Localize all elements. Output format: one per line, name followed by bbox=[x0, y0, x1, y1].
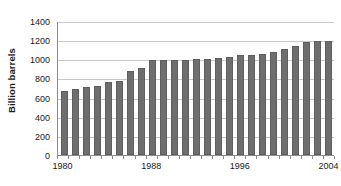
x-axis-tick-mark bbox=[101, 156, 102, 159]
bar bbox=[314, 41, 321, 155]
y-axis-tick-label: 1400 bbox=[30, 17, 50, 27]
x-axis-tick-label: 1980 bbox=[53, 161, 73, 171]
x-axis-tick-mark bbox=[268, 156, 269, 159]
bar bbox=[270, 52, 277, 155]
bar bbox=[149, 60, 156, 155]
bar bbox=[215, 58, 222, 155]
bar bbox=[226, 57, 233, 155]
x-axis-tick-mark bbox=[290, 156, 291, 159]
y-axis-tick-label: 200 bbox=[35, 132, 50, 142]
y-axis-tick-label: 1000 bbox=[30, 55, 50, 65]
y-axis-tick-label: 0 bbox=[45, 151, 50, 161]
y-axis-tick-labels: 0200400600800100012001400 bbox=[20, 15, 53, 156]
bar bbox=[259, 54, 266, 155]
bar-chart-figure: Billion barrels 020040060080010001200140… bbox=[0, 0, 341, 186]
bar bbox=[171, 60, 178, 155]
x-axis-tick-mark bbox=[234, 156, 235, 159]
x-axis-tick-mark bbox=[279, 156, 280, 159]
x-axis-tick-mark bbox=[57, 156, 58, 159]
x-axis-tick-mark bbox=[112, 156, 113, 159]
y-axis-tick-label: 600 bbox=[35, 94, 50, 104]
x-axis-tick-label: 1988 bbox=[141, 161, 161, 171]
x-axis-tick-labels: 1980198819962004 bbox=[57, 161, 334, 177]
x-axis-tick-mark bbox=[201, 156, 202, 159]
x-axis-tick-mark bbox=[146, 156, 147, 159]
x-axis-tick-label: 1996 bbox=[230, 161, 250, 171]
bar bbox=[94, 86, 101, 155]
bar bbox=[204, 59, 211, 155]
x-axis-tick-mark bbox=[135, 156, 136, 159]
bar bbox=[105, 82, 112, 155]
x-axis-tick-mark bbox=[90, 156, 91, 159]
bar bbox=[83, 87, 90, 155]
y-axis-tick-label: 800 bbox=[35, 74, 50, 84]
x-axis-tick-mark bbox=[245, 156, 246, 159]
x-axis-tick-mark bbox=[223, 156, 224, 159]
bar bbox=[138, 68, 145, 155]
x-axis-tick-mark bbox=[190, 156, 191, 159]
bar bbox=[303, 42, 310, 155]
y-axis-title: Billion barrels bbox=[2, 0, 20, 160]
bar bbox=[237, 55, 244, 155]
y-axis-tick-label: 1200 bbox=[30, 36, 50, 46]
bar-series bbox=[58, 22, 334, 155]
y-axis-title-text: Billion barrels bbox=[6, 48, 17, 113]
x-axis-tick-mark bbox=[301, 156, 302, 159]
bar bbox=[281, 49, 288, 155]
bar bbox=[193, 59, 200, 155]
x-axis-tick-mark bbox=[68, 156, 69, 159]
x-axis-tick-mark bbox=[157, 156, 158, 159]
x-axis-tick-mark bbox=[256, 156, 257, 159]
x-axis-tick-mark bbox=[312, 156, 313, 159]
bar bbox=[182, 60, 189, 155]
bar bbox=[127, 71, 134, 155]
x-axis-tick-mark bbox=[212, 156, 213, 159]
plot-area bbox=[57, 22, 334, 156]
y-axis-tick-label: 400 bbox=[35, 113, 50, 123]
x-axis-tick-mark bbox=[334, 156, 335, 159]
bar bbox=[72, 89, 79, 155]
bar bbox=[61, 91, 68, 155]
bar bbox=[248, 55, 255, 156]
bar bbox=[325, 41, 332, 155]
bar bbox=[116, 81, 123, 155]
x-axis-tick-label: 2004 bbox=[318, 161, 338, 171]
x-axis-tick-mark bbox=[168, 156, 169, 159]
bar bbox=[292, 46, 299, 155]
x-axis-tick-mark bbox=[79, 156, 80, 159]
x-axis-tick-mark bbox=[179, 156, 180, 159]
bar bbox=[160, 60, 167, 155]
x-axis-tick-mark bbox=[123, 156, 124, 159]
x-axis-tick-mark bbox=[323, 156, 324, 159]
